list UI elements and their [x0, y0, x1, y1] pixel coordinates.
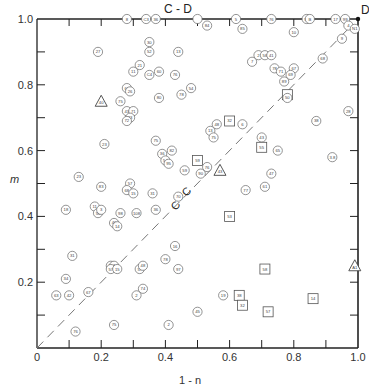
data-point-label: 71: [279, 69, 284, 74]
data-point-circle: 59: [180, 166, 189, 175]
data-point-circle: 63: [52, 291, 61, 300]
data-point-circle: 36: [151, 14, 160, 23]
data-point-label: A1: [352, 265, 358, 270]
data-point-circle: 97: [174, 264, 183, 273]
data-point-label: 16: [173, 244, 178, 249]
data-point-circle: 47: [267, 169, 276, 178]
data-point-label: C4: [147, 72, 153, 77]
data-point-circle: 85: [238, 24, 247, 33]
data-point-circle: 2: [132, 291, 141, 300]
x-tick-label: 0.2: [94, 351, 109, 363]
data-point-circle: 90: [196, 169, 205, 178]
data-point-square: 14: [308, 294, 318, 304]
data-point-label: 95: [166, 161, 171, 166]
data-point-circle: 41: [267, 51, 276, 60]
data-point-circle: 78: [161, 255, 170, 264]
data-point-circle: 43: [257, 133, 266, 142]
data-point-label: 70: [176, 194, 181, 199]
data-point-circle: 15: [129, 189, 138, 198]
y-tick-label: 0.4: [18, 210, 33, 222]
data-point-circle: 15: [113, 264, 122, 273]
data-point-label: 75: [118, 99, 123, 104]
data-point-circle: 8: [122, 14, 131, 23]
data-point-label: 26: [128, 89, 133, 94]
data-point-label: 75: [211, 135, 216, 140]
data-point-label: 75: [112, 322, 117, 327]
data-point-label: 78: [163, 257, 168, 262]
data-point-label: 85: [240, 26, 245, 31]
data-point-label: 50: [285, 95, 290, 100]
data-point-label: 52: [147, 49, 152, 54]
data-point-circle: 80: [154, 93, 163, 102]
data-point-circle: 52: [145, 47, 154, 56]
data-point-label: 108: [133, 211, 141, 216]
data-point-circle: 76: [71, 327, 80, 336]
data-point-label: 32: [227, 118, 232, 123]
data-point-circle: 27: [93, 47, 102, 56]
data-point-label: 72: [125, 118, 130, 123]
data-point-circle: 23: [74, 172, 83, 181]
data-point-circle: 7: [247, 57, 256, 66]
data-point-circle: 75: [151, 136, 160, 145]
data-point-circle: 76: [170, 70, 179, 79]
data-point-label: 10: [291, 30, 296, 35]
x-tick-label: 1.0: [350, 351, 365, 363]
scatter-chart: 00.20.40.60.81.00.20.40.60.81.0 C - D D …: [0, 0, 369, 391]
data-point-label: 15: [115, 267, 120, 272]
data-point-circle: 30: [145, 37, 154, 46]
data-point-square: 38: [234, 290, 244, 300]
data-point-label: 43: [218, 169, 223, 174]
data-point-label: 17: [333, 17, 338, 22]
data-point-circle: 5: [231, 14, 240, 23]
corner-d-point: [356, 17, 360, 21]
data-point-label: 77: [243, 188, 248, 193]
data-point-circle: 54: [186, 83, 195, 92]
data-point-label: 71: [131, 109, 136, 114]
data-point-label: 18: [64, 207, 69, 212]
data-point-square: 59: [193, 155, 203, 165]
data-point-label: 27: [96, 49, 101, 54]
data-point-circle: B: [305, 14, 314, 23]
data-point-circle: 75: [109, 320, 118, 329]
data-point-circle: 98: [116, 209, 125, 218]
c-c-diagonal-line: [37, 25, 352, 348]
data-point-label: 74: [141, 286, 146, 291]
data-point-circle: 31: [148, 189, 157, 198]
data-point-label: 13: [176, 49, 181, 54]
data-point-circle: 89: [280, 77, 289, 86]
data-point-circle: 16: [170, 241, 179, 250]
data-point-circle: 78: [177, 90, 186, 99]
data-point-circle: 18: [61, 205, 70, 214]
data-point-label: 82: [169, 148, 174, 153]
data-point-circle: 17: [331, 14, 340, 23]
data-point-circle: 36: [151, 205, 160, 214]
data-point-circle: 84: [203, 21, 212, 30]
data-point-circle: 3.8: [328, 153, 337, 162]
data-point-label: 43: [259, 135, 264, 140]
data-point-circle: 60: [154, 67, 163, 76]
data-point-circle: 9: [337, 34, 346, 43]
data-point-label: 60: [157, 69, 162, 74]
data-point-label: 40: [99, 100, 104, 105]
data-point-label: 55: [259, 145, 264, 150]
data-point-label: 48: [141, 263, 146, 268]
data-point-circle: 42: [65, 291, 74, 300]
y-tick-label: 0.6: [18, 145, 33, 157]
data-point-circle: 108: [132, 209, 141, 218]
data-point-square: 58: [260, 264, 270, 274]
data-point-label: 75: [153, 138, 158, 143]
data-point-label: 11: [131, 69, 136, 74]
data-point-label: 28: [346, 109, 351, 114]
data-point-label: 42: [67, 293, 72, 298]
data-point-circle: 14: [113, 222, 122, 231]
x-axis-title: 1 - n: [179, 374, 201, 386]
data-point-circle: 13: [174, 47, 183, 56]
data-point-label: 58: [263, 267, 268, 272]
data-point-circle: 83: [97, 182, 106, 191]
data-point-label: 68: [320, 56, 325, 61]
data-point-label: 67: [291, 66, 296, 71]
data-point-circle: 11: [129, 67, 138, 76]
data-point-label: 63: [54, 293, 59, 298]
data-point-circle: 72: [122, 116, 131, 125]
data-point-square: 32: [237, 300, 247, 310]
